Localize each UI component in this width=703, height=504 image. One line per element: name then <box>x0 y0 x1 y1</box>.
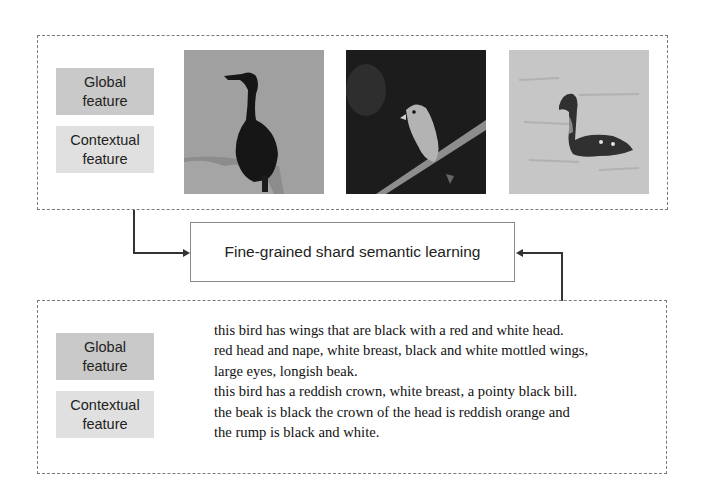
tag-label: Global <box>82 73 127 92</box>
connector-line-left-horizontal <box>133 252 185 254</box>
global-feature-tag-bottom: Globalfeature <box>56 333 154 380</box>
tag-label: Contextual <box>70 396 139 415</box>
connector-line-right-vertical <box>561 252 563 301</box>
fine-grained-learning-box: Fine-grained shard semantic learning <box>190 222 515 282</box>
perched-bird-illustration <box>346 50 486 194</box>
caption-line: large eyes, longish beak. <box>214 361 588 381</box>
caption-text-block: this bird has wings that are black with … <box>214 320 588 442</box>
tag-label: Contextual <box>70 131 139 150</box>
caption-line: this bird has wings that are black with … <box>214 320 588 340</box>
connector-line-left-vertical <box>133 210 135 253</box>
arrowhead-right-icon <box>183 249 190 257</box>
cormorant-illustration <box>184 50 324 194</box>
tag-label: feature <box>82 92 127 111</box>
connector-line-right-horizontal <box>522 252 563 254</box>
caption-line: red head and nape, white breast, black a… <box>214 340 588 360</box>
bird-image-perched <box>346 50 486 194</box>
duck-illustration <box>509 50 649 194</box>
tag-label: Global <box>82 338 127 357</box>
caption-line: the beak is black the crown of the head … <box>214 402 588 422</box>
bird-image-cormorant <box>184 50 324 194</box>
contextual-feature-tag-bottom: Contextualfeature <box>56 391 154 438</box>
tag-label: feature <box>70 415 139 434</box>
caption-line: the rump is black and white. <box>214 422 588 442</box>
global-feature-tag-top: Globalfeature <box>56 68 154 115</box>
bird-image-duck <box>509 50 649 194</box>
tag-label: feature <box>70 150 139 169</box>
tag-label: feature <box>82 357 127 376</box>
center-label: Fine-grained shard semantic learning <box>225 243 481 261</box>
caption-line: this bird has a reddish crown, white bre… <box>214 381 588 401</box>
arrowhead-left-icon <box>516 249 523 257</box>
contextual-feature-tag-top: Contextualfeature <box>56 126 154 173</box>
